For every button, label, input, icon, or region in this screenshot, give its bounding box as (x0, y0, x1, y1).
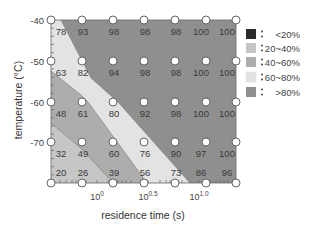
legend-swatch (246, 72, 256, 82)
grid-point (78, 16, 86, 24)
legend-swatch (246, 57, 256, 67)
cell-value: 39 (109, 167, 120, 178)
y-tick-label: -70 (30, 137, 44, 148)
cell-value: 96 (222, 167, 233, 178)
grid-point (232, 138, 240, 146)
x-tick-label: 100.5 (138, 190, 157, 202)
legend-label: 20~40% (265, 43, 301, 54)
grid-point (232, 179, 240, 187)
cell-value: 78 (56, 26, 67, 37)
grid-point (202, 138, 210, 146)
cell-value: 92 (140, 108, 151, 119)
cell-value: 98 (140, 67, 151, 78)
grid-point (109, 179, 117, 187)
cell-value: 98 (109, 26, 120, 37)
grid-point (78, 57, 86, 65)
grid-point (232, 16, 240, 24)
legend-label: 40~60% (265, 57, 301, 68)
cell-value: 61 (78, 108, 89, 119)
grid-point (109, 138, 117, 146)
y-tick-label: -50 (30, 56, 44, 67)
cell-value: 63 (56, 67, 67, 78)
grid-point (140, 16, 148, 24)
grid-point (47, 138, 55, 146)
legend-label: >80% (275, 87, 300, 98)
grid-point (140, 179, 148, 187)
grid-point (47, 179, 55, 187)
cell-value: 32 (56, 148, 67, 159)
grid-point (47, 57, 55, 65)
cell-value: 49 (78, 148, 89, 159)
x-tick-label: 100 (90, 190, 104, 202)
contour-chart: 7893989898100100638294989810010048618092… (0, 0, 313, 227)
cell-value: 86 (196, 167, 207, 178)
grid-point (202, 98, 210, 106)
cell-value: 73 (171, 167, 182, 178)
grid-point (140, 138, 148, 146)
grid-point (171, 138, 179, 146)
cell-value: 98 (171, 26, 182, 37)
grid-point (202, 16, 210, 24)
y-tick-label: -40 (30, 15, 44, 26)
grid-point (109, 16, 117, 24)
legend-swatch (246, 43, 256, 53)
grid-point (109, 98, 117, 106)
grid-point (78, 179, 86, 187)
grid-point (47, 16, 55, 24)
legend-item: 20~40% (246, 43, 301, 54)
y-tick-label: -60 (30, 97, 44, 108)
x-axis-title: residence time (s) (101, 209, 184, 221)
cell-value: 94 (109, 67, 120, 78)
grid-point (78, 138, 86, 146)
cell-value: 93 (78, 26, 89, 37)
legend-item: <20% (246, 29, 301, 40)
cell-value: 48 (56, 108, 67, 119)
cell-value: 56 (140, 167, 151, 178)
cell-value: 26 (78, 167, 89, 178)
cell-value: 100 (219, 67, 235, 78)
legend-label: 60~80% (265, 72, 301, 83)
grid-point (109, 57, 117, 65)
cell-value: 100 (193, 26, 209, 37)
cell-value: 97 (196, 148, 207, 159)
y-axis-title: temperature (°C) (12, 61, 24, 139)
cell-value: 98 (171, 67, 182, 78)
cell-value: 60 (109, 148, 120, 159)
grid-point (202, 179, 210, 187)
cell-value: 20 (56, 167, 67, 178)
cell-value: 100 (219, 148, 235, 159)
cell-value: 82 (78, 67, 89, 78)
x-tick-label: 101.0 (189, 190, 208, 202)
grid-point (140, 98, 148, 106)
legend-item: 40~60% (246, 57, 301, 68)
grid-point (140, 57, 148, 65)
grid-point (171, 179, 179, 187)
grid-point (232, 57, 240, 65)
grid-point (171, 98, 179, 106)
cell-value: 100 (219, 108, 235, 119)
grid-point (202, 57, 210, 65)
grid-point (232, 98, 240, 106)
grid-point (78, 98, 86, 106)
cell-value: 100 (193, 67, 209, 78)
legend-label: <20% (275, 29, 300, 40)
grid-point (171, 57, 179, 65)
cell-value: 76 (140, 148, 151, 159)
cell-value: 100 (219, 26, 235, 37)
cell-value: 90 (171, 148, 182, 159)
cell-value: 98 (140, 26, 151, 37)
legend-swatch (246, 29, 256, 39)
legend-item: 60~80% (246, 72, 301, 83)
grid-point (47, 98, 55, 106)
cell-value: 98 (171, 108, 182, 119)
grid-point (171, 16, 179, 24)
cell-value: 80 (109, 108, 120, 119)
cell-value: 100 (193, 108, 209, 119)
legend-swatch (246, 87, 256, 97)
legend-item: >80% (246, 87, 301, 98)
legend: <20%20~40%40~60%60~80%>80% (246, 29, 301, 98)
